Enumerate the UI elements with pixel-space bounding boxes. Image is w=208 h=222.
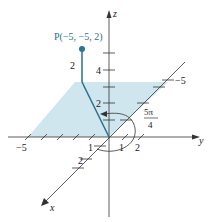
cylindrical-coordinates-diagram: P(−5, −5, 2) 2 z y x 4 2 −5 1 2 −5 1 2 5… (0, 0, 208, 222)
y-tick-1: 1 (119, 142, 124, 153)
z-tick-4: 4 (96, 65, 101, 76)
height-label: 2 (70, 60, 75, 71)
z-arrow-icon (107, 10, 112, 18)
y-tick-2: 2 (135, 142, 140, 153)
x-tick-1: 1 (88, 142, 93, 153)
point-label: P(−5, −5, 2) (54, 31, 103, 43)
point-p-dot (79, 46, 85, 52)
y-axis-label: y (198, 135, 204, 146)
angle-label: 5π 4 (144, 107, 158, 130)
x-axis-label: x (49, 202, 55, 213)
x-tick-2: 2 (78, 155, 83, 166)
y-tick-neg5: −5 (16, 142, 27, 153)
z-tick-2: 2 (96, 98, 101, 109)
angle-numerator: 5π (144, 107, 154, 117)
x-tick-neg5: −5 (175, 75, 186, 86)
z-axis-label: z (112, 8, 117, 19)
angle-denominator: 4 (148, 120, 153, 130)
